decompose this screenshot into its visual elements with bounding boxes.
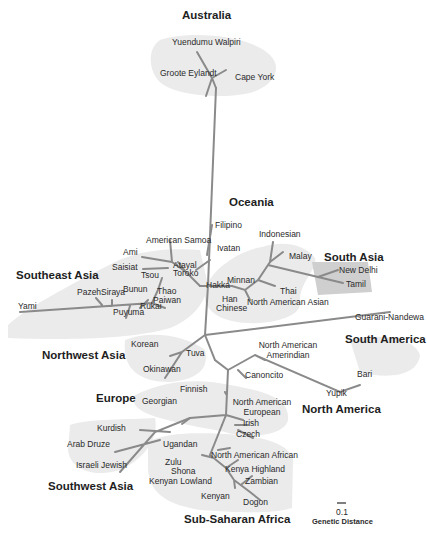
label-siraya: Siraya xyxy=(101,288,125,297)
label-na-european-line2: European xyxy=(222,408,302,417)
region-label-southwest-asia: Southwest Asia xyxy=(48,481,133,493)
label-tuva: Tuva xyxy=(186,349,205,358)
label-shona: Shona xyxy=(171,467,196,476)
label-yuendumu-walpiri: Yuendumu Walpiri xyxy=(172,38,241,47)
label-kenyan: Kenyan xyxy=(201,492,230,501)
label-yupik: Yupik xyxy=(326,389,347,398)
label-na-european-line1: North American xyxy=(222,398,302,407)
label-guarani-nandewa: Guarani-Nandewa xyxy=(355,313,424,322)
label-yami: Yami xyxy=(18,302,37,311)
label-israeli-jewish: Israeli Jewish xyxy=(76,461,127,470)
label-na-amerindian-line1: North American xyxy=(248,341,328,350)
label-filipino: Filipino xyxy=(215,221,242,230)
label-bunun: Bunun xyxy=(123,285,148,294)
label-north-american-asian: North American Asian xyxy=(247,298,329,307)
label-finnish: Finnish xyxy=(180,385,207,394)
label-korean: Korean xyxy=(131,340,158,349)
label-indonesian: Indonesian xyxy=(259,230,301,239)
label-dogon: Dogon xyxy=(243,498,268,507)
label-rukai: Rukai xyxy=(140,302,162,311)
label-toroko: Toroko xyxy=(173,269,199,278)
label-na-amerindian-line2: Amerindian xyxy=(248,351,328,360)
region-label-south-asia: South Asia xyxy=(324,252,384,264)
label-north-american-african: North American African xyxy=(211,451,298,460)
scale-bar-label: Genetic Distance xyxy=(312,518,372,526)
label-tamil: Tamil xyxy=(346,280,366,289)
label-irish: Irish xyxy=(243,419,259,428)
label-cape-york: Cape York xyxy=(235,73,274,82)
region-label-australia: Australia xyxy=(182,10,231,22)
region-label-sub-saharan-africa: Sub-Saharan Africa xyxy=(184,514,290,526)
region-label-europe: Europe xyxy=(96,393,136,405)
label-ugandan: Ugandan xyxy=(163,440,198,449)
region-label-oceania: Oceania xyxy=(229,197,274,209)
label-saisiat: Saisiat xyxy=(112,263,138,272)
label-bari: Bari xyxy=(357,370,372,379)
label-american-samoa: American Samoa xyxy=(146,236,211,245)
label-thai: Thai xyxy=(280,287,297,296)
region-label-north-america: North America xyxy=(302,404,381,416)
label-ivatan: Ivatan xyxy=(217,244,240,253)
label-chinese: Chinese xyxy=(216,304,247,313)
label-minnan: Minnan xyxy=(227,276,255,285)
region-label-south-america: South America xyxy=(345,334,426,346)
label-tsou: Tsou xyxy=(141,271,159,280)
label-new-delhi: New Delhi xyxy=(339,266,378,275)
label-pazeh: Pazeh xyxy=(77,288,101,297)
label-ami: Ami xyxy=(123,248,138,257)
scale-bar-value: 0.1 xyxy=(322,508,362,517)
label-canoncito: Canoncito xyxy=(245,371,283,380)
label-kenya-highland: Kenya Highland xyxy=(225,465,285,474)
region-label-southeast-asia: Southeast Asia xyxy=(16,270,99,282)
label-okinawan: Okinawan xyxy=(143,365,181,374)
label-groote-eylandt: Groote Eylandt xyxy=(160,69,217,78)
label-czech: Czech xyxy=(236,430,260,439)
region-label-northwest-asia: Northwest Asia xyxy=(42,350,125,362)
label-kurdish: Kurdish xyxy=(97,424,126,433)
label-zambian: Zambian xyxy=(245,477,278,486)
label-georgian: Georgian xyxy=(142,397,177,406)
label-malay: Malay xyxy=(289,252,312,261)
label-kenyan-lowland: Kenyan Lowland xyxy=(149,477,212,486)
label-arab-druze: Arab Druze xyxy=(67,440,110,449)
